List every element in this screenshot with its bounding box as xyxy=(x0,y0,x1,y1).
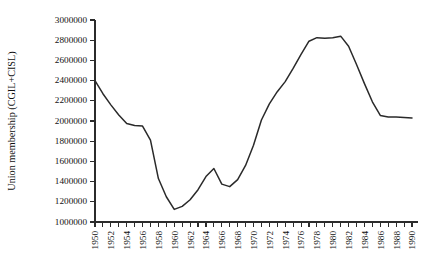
x-axis-tick-label: 1974 xyxy=(281,231,291,250)
y-axis-tick-label: 2200000 xyxy=(55,95,88,105)
data-series-line xyxy=(95,36,412,209)
y-axis-label-text: Union membership (CGIL+CISL) xyxy=(6,51,18,190)
y-axis-tick-label: 2800000 xyxy=(55,35,88,45)
x-axis-tick-label: 1990 xyxy=(407,231,417,250)
x-axis-tick-label: 1978 xyxy=(312,231,322,250)
line-chart: Union membership (CGIL+CISL) 10000001200… xyxy=(0,0,425,270)
x-axis-tick-label: 1952 xyxy=(106,231,116,250)
y-axis-tick-label: 1200000 xyxy=(55,196,88,206)
y-axis-tick-label: 3000000 xyxy=(55,15,88,25)
x-axis-tick-label: 1954 xyxy=(122,231,132,250)
x-axis-tick-label: 1976 xyxy=(296,231,306,250)
x-axis-tick-label: 1980 xyxy=(328,231,338,250)
x-axis-tick-label: 1964 xyxy=(201,231,211,250)
y-axis-tick-label: 1400000 xyxy=(55,176,88,186)
x-axis-tick-label: 1958 xyxy=(154,231,164,250)
x-axis-tick-label: 1966 xyxy=(217,231,227,250)
y-axis-tick-label: 2000000 xyxy=(55,116,88,126)
y-axis-tick-label: 1000000 xyxy=(55,217,88,227)
x-axis-tick-label: 1972 xyxy=(265,231,275,250)
x-axis-tick-label: 1956 xyxy=(138,231,148,250)
y-axis-tick-label: 2400000 xyxy=(55,75,88,85)
x-axis-tick-label: 1970 xyxy=(249,231,259,250)
chart-container: Union membership (CGIL+CISL) 10000001200… xyxy=(0,0,425,270)
y-axis-tick-label: 1800000 xyxy=(55,136,88,146)
y-axis-ticks: 1000000120000014000001600000180000020000… xyxy=(55,15,95,227)
x-axis-tick-label: 1968 xyxy=(233,231,243,250)
x-axis-tick-labels: 1950195219541956195819601962196419661968… xyxy=(90,231,417,250)
x-axis-tick-label: 1988 xyxy=(392,231,402,250)
x-axis-tick-label: 1960 xyxy=(170,231,180,250)
y-axis-label: Union membership (CGIL+CISL) xyxy=(6,51,18,190)
x-axis-tick-label: 1986 xyxy=(376,231,386,250)
x-axis-tick-label: 1984 xyxy=(360,231,370,250)
y-axis-tick-label: 1600000 xyxy=(55,156,88,166)
x-axis-tick-label: 1950 xyxy=(90,231,100,250)
y-axis-tick-label: 2600000 xyxy=(55,55,88,65)
x-axis-tick-label: 1962 xyxy=(186,231,196,250)
x-axis-tick-label: 1982 xyxy=(344,231,354,250)
